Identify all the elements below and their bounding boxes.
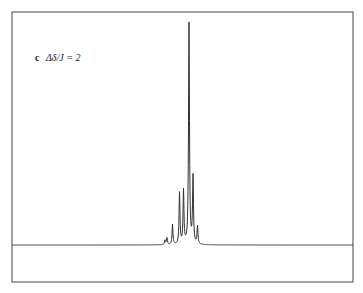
spectrum-plot <box>0 0 363 293</box>
panel-letter: c <box>35 52 39 63</box>
panel-annotation: c Δδ/J = 2 <box>35 52 80 63</box>
ratio-annotation: Δδ/J = 2 <box>46 52 80 63</box>
